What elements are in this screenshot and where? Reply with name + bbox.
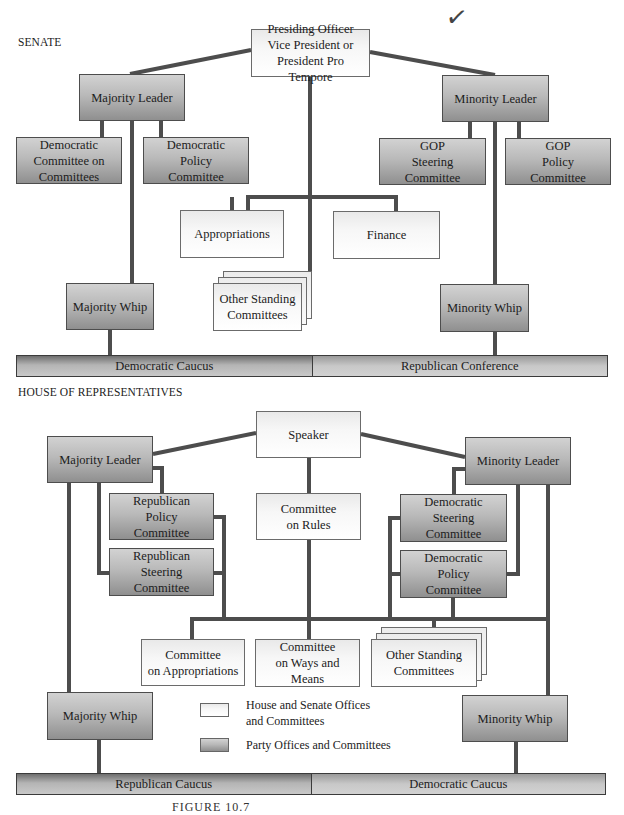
- house-section-label: HOUSE OF REPRESENTATIVES: [18, 386, 182, 398]
- box-line: Policy: [438, 566, 470, 582]
- senate-majority-whip-label: Majority Whip: [73, 299, 147, 315]
- caucus-label: Democratic Caucus: [409, 777, 507, 792]
- caucus-label: Democratic Caucus: [115, 359, 213, 374]
- house-majority-leader-box: Majority Leader: [47, 436, 153, 483]
- box-line: Republican: [133, 493, 190, 509]
- senate-minority-leader-label: Minority Leader: [454, 91, 536, 107]
- legend-line: House and Senate Offices: [246, 697, 370, 713]
- box-line: Other Standing: [219, 291, 295, 307]
- figure-caption: FIGURE 10.7: [172, 800, 250, 815]
- box-line: Policy: [180, 153, 212, 169]
- house-democratic-caucus: Democratic Caucus: [312, 774, 606, 794]
- senate-minority-leader-box: Minority Leader: [442, 75, 549, 122]
- box-line: Committee: [134, 580, 190, 596]
- box-line: Steering: [412, 154, 454, 170]
- box-line: Democratic: [40, 137, 98, 153]
- box-line: Democratic: [167, 137, 225, 153]
- box-line: Policy: [146, 509, 178, 525]
- senate-appropriations-box: Appropriations: [180, 210, 284, 258]
- senate-republican-conference: Republican Conference: [313, 356, 608, 376]
- senate-finance-box: Finance: [333, 211, 440, 259]
- house-committee-on-rules-box: Committee on Rules: [256, 493, 361, 540]
- senate-finance-label: Finance: [367, 227, 407, 243]
- box-line: Committee: [165, 647, 221, 663]
- box-line: Democratic: [424, 494, 482, 510]
- box-line: on Ways and: [275, 655, 339, 671]
- house-dem-policy-committee-box: Democratic Policy Committee: [400, 550, 507, 598]
- box-line: GOP: [420, 138, 445, 154]
- house-minority-leader-box: Minority Leader: [465, 437, 571, 485]
- house-minority-leader-label: Minority Leader: [477, 453, 559, 469]
- presiding-officer-line2: Vice President or: [267, 37, 353, 53]
- box-line: Committee: [281, 501, 337, 517]
- box-line: on Rules: [286, 517, 330, 533]
- house-majority-whip-box: Majority Whip: [47, 692, 153, 740]
- house-rep-steering-committee-box: Republican Steering Committee: [109, 548, 214, 596]
- house-speaker-label: Speaker: [288, 427, 328, 443]
- box-line: Committees: [394, 663, 454, 679]
- senate-minority-whip-box: Minority Whip: [440, 284, 529, 332]
- legend-dark-label: Party Offices and Committees: [246, 737, 391, 753]
- box-line: Means: [291, 671, 324, 687]
- senate-other-standing-committees-box: Other Standing Committees: [213, 283, 302, 331]
- house-rep-policy-committee-box: Republican Policy Committee: [109, 493, 214, 540]
- box-line: Committee: [426, 526, 482, 542]
- house-other-standing-committees-box: Other Standing Committees: [371, 639, 477, 687]
- box-line: Steering: [141, 564, 183, 580]
- senate-majority-leader-label: Majority Leader: [91, 90, 173, 106]
- box-line: Committees: [227, 307, 287, 323]
- box-line: Committee: [168, 169, 224, 185]
- house-majority-leader-label: Majority Leader: [59, 452, 141, 468]
- box-line: on Appropriations: [148, 663, 239, 679]
- house-minority-whip-label: Minority Whip: [477, 711, 552, 727]
- box-line: Committee: [280, 639, 336, 655]
- legend-light-label: House and Senate Offices and Committees: [246, 697, 370, 729]
- senate-gop-policy-committee-box: GOP Policy Committee: [505, 138, 611, 185]
- box-line: Other Standing: [386, 647, 462, 663]
- box-line: Democratic: [424, 550, 482, 566]
- box-line: Committee: [134, 525, 190, 541]
- house-minority-whip-box: Minority Whip: [462, 695, 568, 742]
- house-caucus-bar: Republican Caucus Democratic Caucus: [16, 773, 606, 795]
- senate-democratic-caucus: Democratic Caucus: [17, 356, 313, 376]
- box-line: Committee on: [33, 153, 104, 169]
- presiding-officer-line3: President Pro Tempore: [255, 53, 366, 85]
- senate-majority-whip-box: Majority Whip: [66, 283, 154, 330]
- box-line: Committee: [530, 170, 586, 186]
- senate-dem-committee-on-committees-box: Democratic Committee on Committees: [16, 137, 122, 184]
- senate-section-label: SENATE: [18, 36, 61, 48]
- senate-presiding-officer-box: Presiding Officer Vice President or Pres…: [251, 29, 370, 77]
- box-line: Committee: [405, 170, 461, 186]
- senate-gop-steering-committee-box: GOP Steering Committee: [379, 138, 486, 185]
- box-line: Committee: [426, 582, 482, 598]
- senate-caucus-bar: Democratic Caucus Republican Conference: [16, 355, 608, 377]
- house-committee-on-appropriations-box: Committee on Appropriations: [141, 639, 245, 686]
- legend-dark-swatch: [200, 738, 229, 752]
- box-line: GOP: [545, 138, 570, 154]
- box-line: Committees: [39, 169, 99, 185]
- senate-majority-leader-box: Majority Leader: [79, 74, 185, 121]
- box-line: Republican: [133, 548, 190, 564]
- senate-dem-policy-committee-box: Democratic Policy Committee: [143, 137, 249, 184]
- handwritten-checkmark-icon: ✓: [444, 1, 470, 34]
- legend-line: and Committees: [246, 713, 370, 729]
- house-committee-on-ways-and-means-box: Committee on Ways and Means: [255, 639, 360, 687]
- house-speaker-box: Speaker: [256, 411, 361, 458]
- house-dem-steering-committee-box: Democratic Steering Committee: [400, 494, 507, 542]
- presiding-officer-line1: Presiding Officer: [267, 21, 353, 37]
- caucus-label: Republican Conference: [401, 359, 519, 374]
- house-majority-whip-label: Majority Whip: [63, 708, 137, 724]
- box-line: Steering: [433, 510, 475, 526]
- house-republican-caucus: Republican Caucus: [17, 774, 312, 794]
- senate-minority-whip-label: Minority Whip: [447, 300, 522, 316]
- box-line: Policy: [542, 154, 574, 170]
- legend-light-swatch: [200, 703, 229, 717]
- caucus-label: Republican Caucus: [115, 777, 212, 792]
- senate-appropriations-label: Appropriations: [194, 226, 270, 242]
